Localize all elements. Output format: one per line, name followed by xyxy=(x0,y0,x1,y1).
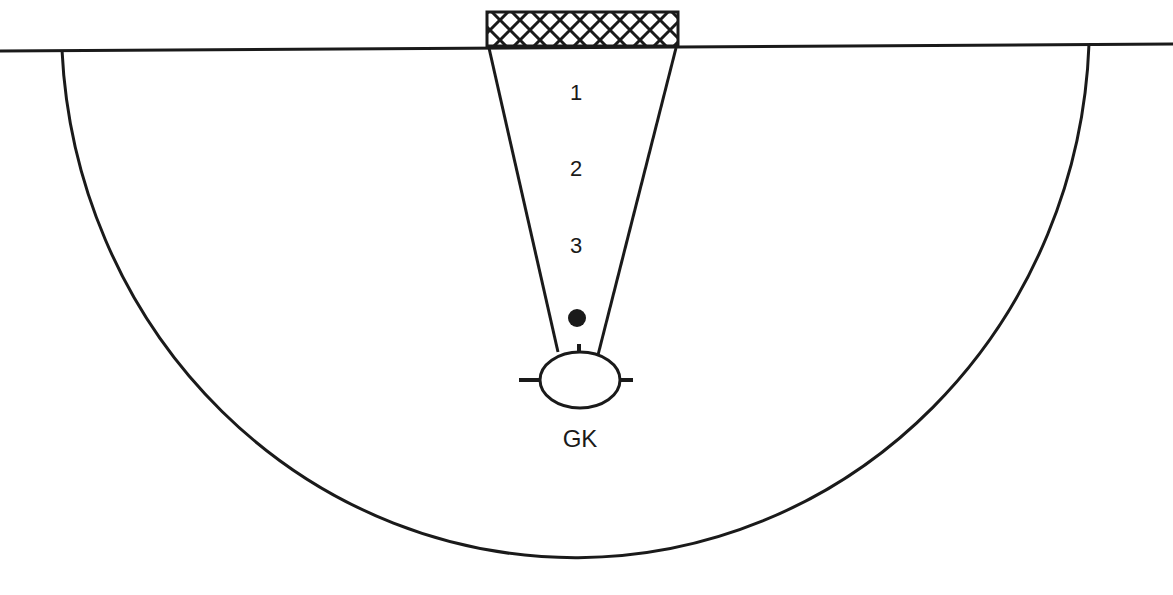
shooting-circle xyxy=(62,44,1089,558)
position-label-2: 2 xyxy=(570,156,582,182)
position-label-1: 1 xyxy=(570,80,582,106)
drill-diagram xyxy=(0,0,1173,595)
goal-net-icon xyxy=(487,12,678,46)
position-label-3: 3 xyxy=(570,233,582,259)
goalkeeper-label: GK xyxy=(563,425,598,453)
ball-icon xyxy=(568,309,586,327)
shooting-lane xyxy=(489,48,676,355)
goalkeeper-icon xyxy=(519,344,633,408)
